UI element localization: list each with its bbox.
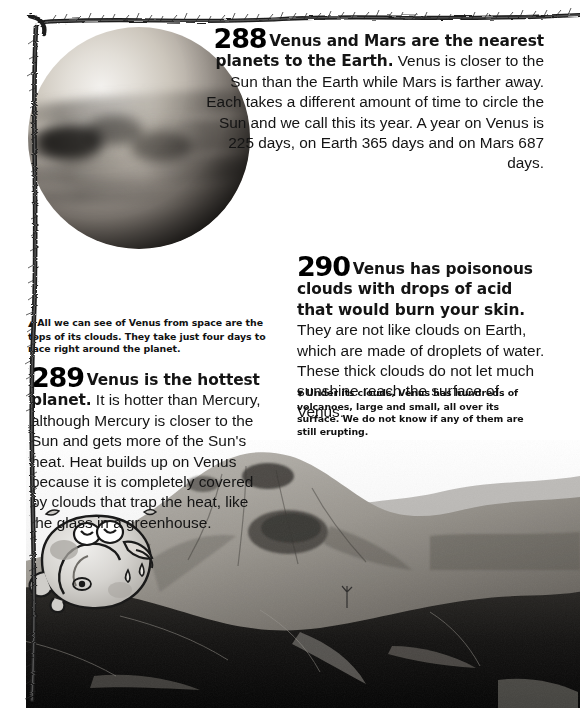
fact-289: 289Venus is the hottest planet. It is ho… (31, 370, 273, 533)
down-triangle-icon: ▼ (297, 389, 303, 398)
caption-volcanoes-text: Under its clouds, Venus has hundreds of … (297, 387, 524, 437)
fact-number-290: 290 (297, 251, 353, 282)
page-surface: 288Venus and Mars are the nearest planet… (0, 0, 580, 708)
caption-venus-clouds: ▲ All we can see of Venus from space are… (28, 317, 278, 356)
caption-venus-clouds-text: All we can see of Venus from space are t… (28, 317, 266, 354)
caption-volcanoes: ▼ Under its clouds, Venus has hundreds o… (297, 387, 541, 438)
up-triangle-icon: ▲ (28, 319, 34, 328)
fact-body-289: It is hotter than Mercury, although Merc… (31, 391, 265, 530)
fact-number-288: 288 (214, 23, 270, 54)
fact-288: 288Venus and Mars are the nearest planet… (196, 31, 544, 174)
fact-number-289: 289 (31, 362, 87, 393)
